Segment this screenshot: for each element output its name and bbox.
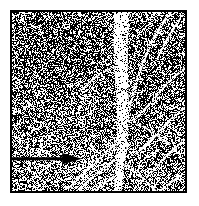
figure-root <box>0 0 199 206</box>
micrograph-canvas <box>12 12 185 191</box>
annotation-arrow-layer <box>12 12 185 191</box>
micrograph-frame <box>10 10 187 193</box>
pointer-arrow-icon <box>12 153 82 164</box>
